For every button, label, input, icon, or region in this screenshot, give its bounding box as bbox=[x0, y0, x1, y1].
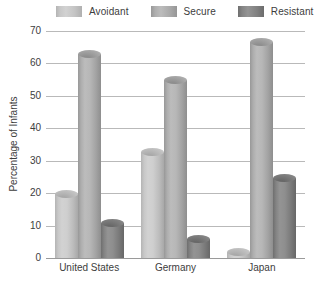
x-tick-label-germany: Germany bbox=[155, 262, 196, 274]
bars-layer bbox=[46, 31, 305, 258]
x-tick-label-japan: Japan bbox=[248, 262, 275, 274]
y-tick-label-70: 70 bbox=[30, 26, 41, 36]
gridline-0 bbox=[46, 258, 305, 259]
bar-body bbox=[141, 152, 164, 258]
bar-avoidant-united-states bbox=[55, 190, 78, 258]
bar-secure-japan bbox=[250, 38, 273, 259]
y-axis-tick-labels: 010203040506070 bbox=[20, 31, 44, 258]
bar-secure-germany bbox=[164, 76, 187, 258]
bar-resistant-germany bbox=[187, 235, 210, 258]
bar-cap bbox=[141, 148, 164, 156]
y-tick-label-20: 20 bbox=[30, 188, 41, 198]
y-tick-label-60: 60 bbox=[30, 58, 41, 68]
legend-item-avoidant: Avoidant bbox=[56, 3, 129, 19]
legend-item-resistant: Resistant bbox=[238, 3, 314, 19]
y-tick-label-30: 30 bbox=[30, 156, 41, 166]
chart-legend: Avoidant Secure Resistant bbox=[56, 3, 316, 19]
bar-body bbox=[273, 178, 296, 258]
bar-body bbox=[250, 42, 273, 259]
bar-avoidant-germany bbox=[141, 148, 164, 258]
bar-avoidant-japan bbox=[227, 248, 250, 258]
bar-body bbox=[164, 80, 187, 258]
bar-body bbox=[101, 223, 124, 258]
x-axis-tick-labels: United StatesGermanyJapan bbox=[46, 262, 305, 280]
x-tick-label-united-states: United States bbox=[59, 262, 119, 274]
y-axis-title: Percentage of Infants bbox=[9, 74, 19, 214]
y-tick-label-10: 10 bbox=[30, 221, 41, 231]
legend-item-secure: Secure bbox=[151, 3, 216, 19]
bar-body bbox=[55, 194, 78, 258]
legend-swatch-resistant bbox=[238, 6, 264, 17]
bar-resistant-united-states bbox=[101, 219, 124, 258]
legend-label-resistant: Resistant bbox=[271, 6, 314, 17]
legend-swatch-secure bbox=[151, 6, 177, 17]
legend-label-avoidant: Avoidant bbox=[89, 6, 129, 17]
bar-cap bbox=[55, 190, 78, 198]
bar-cap bbox=[250, 38, 273, 46]
y-tick-label-0: 0 bbox=[35, 253, 41, 263]
bar-resistant-japan bbox=[273, 174, 296, 258]
legend-swatch-avoidant bbox=[56, 6, 82, 17]
plot-area bbox=[46, 31, 305, 258]
bar-secure-united-states bbox=[78, 50, 101, 258]
bar-body bbox=[78, 54, 101, 258]
legend-label-secure: Secure bbox=[184, 6, 216, 17]
bar-chart: Avoidant Secure Resistant Percentage of … bbox=[0, 0, 322, 289]
bar-cap bbox=[273, 174, 296, 182]
y-tick-label-50: 50 bbox=[30, 91, 41, 101]
bar-cap bbox=[101, 219, 124, 227]
y-tick-label-40: 40 bbox=[30, 123, 41, 133]
